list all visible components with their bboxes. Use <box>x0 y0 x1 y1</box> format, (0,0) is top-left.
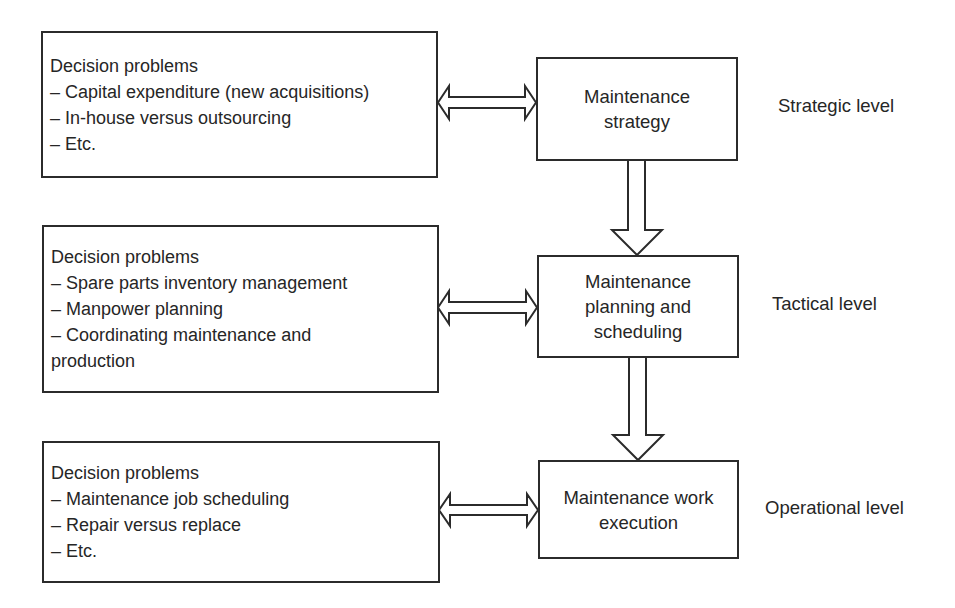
double-arrow-tactical <box>438 291 537 324</box>
level-label-tactical: Tactical level <box>772 293 877 315</box>
decision-problem-item: – Capital expenditure (new acquisitions) <box>50 79 436 105</box>
decision-problems-box-operational: Decision problems – Maintenance job sche… <box>42 441 440 583</box>
decision-problems-heading: Decision problems <box>51 460 438 486</box>
decision-problem-item: – Manpower planning <box>51 296 437 322</box>
decision-problems-box-strategic: Decision problems – Capital expenditure … <box>41 31 438 178</box>
decision-problem-item: – Etc. <box>50 131 436 157</box>
decision-problem-item: – In-house versus outsourcing <box>50 105 436 131</box>
double-arrow-operational <box>439 494 538 526</box>
decision-problem-item: – Maintenance job scheduling <box>51 486 438 512</box>
decision-problem-item: – Coordinating maintenance and <box>51 322 437 348</box>
activity-box-maintenance-planning: Maintenance planning and scheduling <box>537 255 739 358</box>
level-label-strategic: Strategic level <box>778 95 894 117</box>
activity-box-maintenance-execution: Maintenance work execution <box>538 460 739 559</box>
level-label-operational: Operational level <box>765 497 904 519</box>
down-arrow-planning-to-execution <box>613 357 663 460</box>
decision-problems-heading: Decision problems <box>50 53 436 79</box>
double-arrow-strategic <box>438 86 536 119</box>
activity-label-line: strategy <box>604 109 670 134</box>
decision-problem-item: production <box>51 348 437 374</box>
decision-problems-box-tactical: Decision problems – Spare parts inventor… <box>42 225 439 393</box>
activity-box-maintenance-strategy: Maintenance strategy <box>536 57 738 161</box>
activity-label-line: planning and <box>585 294 691 319</box>
activity-label-line: Maintenance <box>585 269 691 294</box>
activity-label-line: Maintenance <box>584 84 690 109</box>
decision-problem-item: – Spare parts inventory management <box>51 270 437 296</box>
activity-label-line: scheduling <box>594 319 682 344</box>
decision-problems-heading: Decision problems <box>51 244 437 270</box>
decision-problem-item: – Repair versus replace <box>51 512 438 538</box>
activity-label-line: execution <box>599 510 678 535</box>
activity-label-line: Maintenance work <box>563 485 713 510</box>
decision-problem-item: – Etc. <box>51 538 438 564</box>
down-arrow-strategy-to-planning <box>612 159 662 255</box>
